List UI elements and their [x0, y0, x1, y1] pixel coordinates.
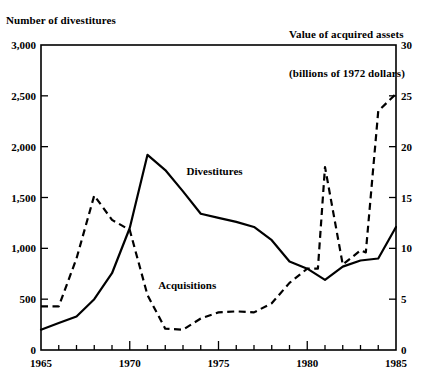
y-right-tick-label: 25 — [401, 90, 413, 102]
chart-figure: Number of divestitures Value of acquired… — [0, 0, 422, 389]
chart-plot-area: 1965197019751980198505001,0001,5002,0002… — [0, 0, 422, 389]
y-left-tick-label: 1,500 — [11, 192, 36, 204]
x-tick-label: 1965 — [30, 357, 53, 369]
series-label-divestitures: Divestitures — [187, 165, 244, 177]
y-right-tick-label: 20 — [401, 141, 413, 153]
x-tick-label: 1980 — [296, 357, 319, 369]
y-left-tick-label: 2,500 — [11, 90, 36, 102]
y-left-tick-label: 3,000 — [11, 39, 36, 51]
series-line-divestitures — [41, 155, 396, 330]
series-line-acquisitions — [41, 94, 396, 330]
y-left-tick-label: 500 — [20, 293, 37, 305]
y-right-tick-label: 15 — [401, 192, 413, 204]
x-tick-label: 1985 — [385, 357, 408, 369]
y-left-tick-label: 2,000 — [11, 141, 36, 153]
x-tick-label: 1970 — [119, 357, 142, 369]
series-label-acquisitions: Acquisitions — [158, 279, 217, 291]
y-right-tick-label: 0 — [401, 344, 407, 356]
y-right-tick-label: 5 — [401, 293, 407, 305]
y-left-tick-label: 0 — [31, 344, 37, 356]
y-right-tick-label: 30 — [401, 39, 413, 51]
y-left-tick-label: 1,000 — [11, 242, 36, 254]
x-tick-label: 1975 — [208, 357, 231, 369]
y-right-tick-label: 10 — [401, 242, 413, 254]
